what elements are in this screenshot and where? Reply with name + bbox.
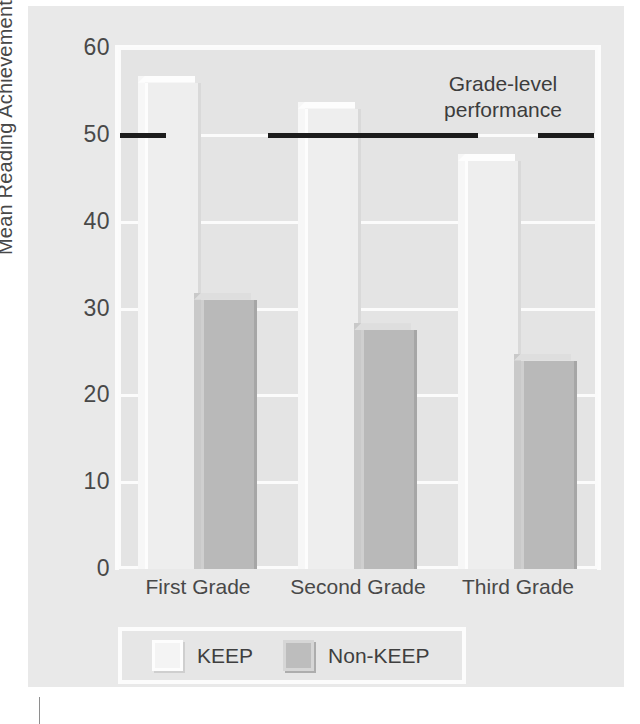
legend-item-keep[interactable]: KEEP (152, 640, 253, 671)
bar-side-face (458, 154, 465, 569)
bar-front-face (145, 83, 201, 569)
legend-label: Non-KEEP (328, 644, 430, 668)
y-tick-label: 40 (56, 210, 110, 233)
bar-side-face (354, 323, 361, 569)
bar-non-keep-second-grade (361, 330, 411, 569)
bar-top-face (194, 293, 251, 300)
bar-side-face (514, 354, 521, 569)
y-axis-label: Mean Reading Achievement (0, 0, 17, 255)
bar-non-keep-third-grade (521, 361, 571, 569)
reference-line-segment (268, 133, 478, 138)
bar-keep-first-grade (145, 83, 195, 569)
bar-side-face (194, 293, 201, 569)
legend-item-non-keep[interactable]: Non-KEEP (283, 640, 430, 671)
bar-top-face (298, 102, 355, 109)
bar-keep-third-grade (465, 161, 515, 569)
x-tick-label: Third Grade (428, 575, 608, 599)
bar-top-face (138, 76, 195, 83)
y-tick-label: 0 (56, 557, 110, 580)
bar-non-keep-first-grade (201, 300, 251, 569)
bar-side-face (138, 76, 145, 569)
x-tick-label: Second Grade (268, 575, 448, 599)
y-tick-label: 50 (56, 123, 110, 146)
grade-level-performance-annotation: Grade-level performance (408, 71, 598, 123)
bar-side-face (298, 102, 305, 569)
chart-legend: KEEPNon-KEEP (118, 627, 466, 684)
y-tick-label: 60 (56, 36, 110, 59)
bar-top-face (354, 323, 411, 330)
bar-front-face (465, 161, 521, 569)
bar-front-face (521, 361, 577, 569)
bar-keep-second-grade (305, 109, 355, 569)
nonkeep-swatch-icon (283, 640, 314, 671)
page-rule-artifact (39, 697, 40, 724)
y-tick-label: 10 (56, 470, 110, 493)
y-tick-label: 20 (56, 383, 110, 406)
y-tick-label: 30 (56, 297, 110, 320)
bar-top-face (458, 154, 515, 161)
gridline (118, 47, 598, 50)
figure: Mean Reading Achievement 0102030405060 G… (0, 0, 640, 724)
legend-label: KEEP (197, 644, 253, 668)
plot-area (118, 48, 598, 569)
bar-front-face (361, 330, 417, 569)
reference-line-segment (538, 133, 594, 138)
keep-swatch-icon (152, 640, 183, 671)
bar-front-face (305, 109, 361, 569)
reference-line-segment (120, 133, 166, 138)
x-tick-label: First Grade (108, 575, 288, 599)
bar-front-face (201, 300, 257, 569)
bar-top-face (514, 354, 571, 361)
